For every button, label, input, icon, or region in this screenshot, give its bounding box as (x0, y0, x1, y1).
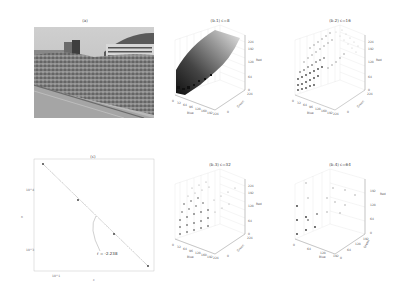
scatter3d-b1 (160, 0, 280, 140)
scatter3d-b4 (280, 150, 418, 299)
x-tick: 160 (201, 109, 207, 113)
x-tick: 64 (183, 247, 187, 251)
x-tick: 96 (309, 105, 313, 109)
y-tick: 0 (347, 110, 349, 114)
x-tick: 128 (195, 251, 201, 255)
z-axis-label: Red (376, 58, 382, 62)
z-tick: 224 (368, 40, 374, 44)
x-tick: 32 (297, 101, 301, 105)
y-axis-label: n (21, 215, 23, 219)
y-tick: 10^4 (26, 188, 34, 192)
x-tick: 0 (172, 243, 174, 247)
x-tick: 0 (293, 243, 295, 247)
z-tick: 128 (368, 60, 374, 64)
x-tick: 192 (207, 255, 213, 259)
z-tick: 64 (248, 219, 252, 223)
panel-b3: (b.3) c=32 0 32 64 96 128 160 192 224 Bl… (160, 150, 280, 299)
x-tick: 192 (327, 111, 333, 115)
panel-c: (c) 10^4 10^3 n 10^1 c r = -2.238 (0, 150, 160, 299)
panel-b1: (b.1) c=8 0 32 64 96 128 160 192 224 Blu… (160, 0, 280, 140)
x-axis-label: Blue (187, 255, 194, 259)
y-tick: 192 (363, 237, 369, 241)
z-tick: 128 (370, 203, 376, 207)
z-tick: 64 (368, 75, 372, 79)
x-tick: 32 (177, 101, 181, 105)
y-tick: 224 (247, 236, 253, 240)
x-tick: 192 (333, 254, 339, 258)
photo (34, 27, 154, 118)
z-tick: 128 (248, 204, 254, 208)
scatter3d-b2 (280, 0, 418, 140)
x-tick: 160 (201, 253, 207, 257)
x-tick: 64 (183, 103, 187, 107)
z-axis-label: Red (380, 192, 386, 196)
z-tick: 224 (248, 40, 254, 44)
x-axis-label: Blue (319, 255, 326, 259)
z-axis-label: Red (256, 58, 262, 62)
y-tick: 0 (227, 254, 229, 258)
photo-image (34, 27, 154, 118)
z-tick: 192 (248, 191, 254, 195)
y-tick: 224 (247, 92, 253, 96)
y-tick: 128 (355, 242, 361, 246)
loglog-plot (0, 150, 160, 299)
slope-annotation: r = -2.238 (97, 251, 117, 256)
z-tick: 192 (368, 47, 374, 51)
z-tick: 224 (248, 184, 254, 188)
z-tick: 0 (248, 232, 250, 236)
y-tick: 10^3 (26, 248, 34, 252)
x-tick: 64 (303, 103, 307, 107)
x-tick: 0 (292, 99, 294, 103)
x-tick: 0 (172, 99, 174, 103)
z-tick: 192 (370, 189, 376, 193)
y-tick: 64 (347, 248, 351, 252)
x-tick: 224 (213, 256, 219, 260)
y-tick: 0 (340, 256, 342, 260)
y-tick: 0 (227, 110, 229, 114)
z-tick: 128 (248, 60, 254, 64)
x-tick: 96 (189, 249, 193, 253)
x-axis-label: Blue (187, 111, 194, 115)
z-tick: 0 (248, 88, 250, 92)
z-axis-label: Red (256, 202, 262, 206)
z-tick: 0 (370, 231, 372, 235)
x-tick: 64 (307, 247, 311, 251)
y-tick: 224 (367, 92, 373, 96)
x-tick: 128 (195, 107, 201, 111)
x-tick: 192 (207, 111, 213, 115)
panel-a-title: (a) (82, 18, 88, 23)
panel-a: (a) (0, 0, 160, 140)
scatter3d-b3 (160, 150, 280, 299)
panel-b2: (b.2) c=16 0 32 64 96 128 160 192 224 Bl (280, 0, 418, 140)
x-tick: 10^1 (52, 274, 60, 278)
x-tick: 224 (333, 112, 339, 116)
z-tick: 64 (248, 75, 252, 79)
panel-b4: (b.4) c=64 0 64 128 192 Blue Green 0 64 … (280, 150, 418, 299)
x-axis-label: Blue (307, 111, 314, 115)
x-tick: 32 (177, 245, 181, 249)
z-tick: 192 (248, 47, 254, 51)
x-tick: 96 (189, 105, 193, 109)
x-tick: 160 (321, 109, 327, 113)
x-axis-label: c (93, 278, 95, 282)
z-tick: 0 (368, 88, 370, 92)
x-tick: 128 (315, 107, 321, 111)
z-tick: 64 (370, 217, 374, 221)
x-tick: 224 (213, 112, 219, 116)
